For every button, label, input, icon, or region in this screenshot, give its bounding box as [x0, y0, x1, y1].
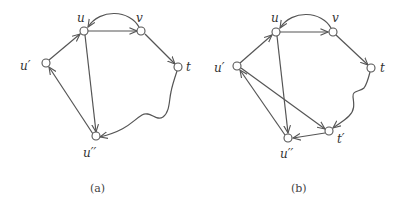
edge-b-u1-u [240, 35, 272, 63]
figure-b: u v t u′ u′′ t′ (b) [214, 11, 385, 195]
label-a-u: u [77, 11, 85, 25]
edge-a-u1-u [49, 34, 80, 60]
edge-a-v-u-arc [88, 13, 139, 27]
diagram-canvas: u v t u′ u′′ (a) u v t u′ u′′ t′ (b) [0, 0, 407, 206]
edge-a-u-u2 [85, 35, 96, 132]
caption-a: (a) [90, 182, 105, 195]
edge-a-t-u2-path [100, 71, 177, 137]
caption-b: (b) [291, 182, 307, 195]
label-b-u2: u′′ [280, 147, 293, 161]
edge-b-u1-t1 [241, 68, 325, 129]
edge-b-u2-u1 [240, 70, 285, 135]
node-b-u [272, 28, 280, 36]
label-a-u1: u′ [20, 59, 31, 73]
node-a-u1 [42, 59, 50, 67]
node-b-u1 [233, 62, 241, 70]
node-a-u2 [92, 132, 100, 140]
node-b-t1 [325, 127, 333, 135]
figure-a: u v t u′ u′′ (a) [20, 11, 191, 195]
edge-b-t-t1-path [333, 72, 370, 128]
edge-b-t1-u2 [293, 133, 325, 138]
node-b-u2 [284, 134, 292, 142]
label-a-t: t [186, 60, 191, 74]
node-b-v [329, 28, 337, 36]
label-a-v: v [136, 11, 143, 25]
node-a-v [137, 27, 145, 35]
label-a-u2: u′′ [83, 146, 96, 160]
edge-a-u2-u1 [49, 67, 93, 134]
edge-b-u-u2 [277, 36, 288, 133]
edge-a-v-t [145, 34, 175, 64]
label-b-v: v [332, 11, 339, 25]
label-b-u: u [271, 11, 279, 25]
node-a-u [80, 27, 88, 35]
label-b-t1: t′ [337, 132, 345, 146]
edge-b-v-t [336, 35, 368, 65]
edge-b-v-u-arc [280, 14, 331, 28]
node-a-t [174, 63, 182, 71]
label-b-u1: u′ [214, 61, 225, 75]
node-b-t [367, 64, 375, 72]
label-b-t: t [380, 61, 385, 75]
